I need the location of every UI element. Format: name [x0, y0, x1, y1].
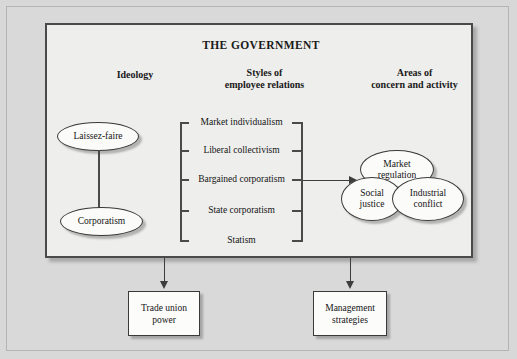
column-header-styles: Styles of employee relations [192, 67, 337, 91]
node-laissez-faire: Laissez-faire [57, 122, 139, 151]
box-management-strategies-line2: strategies [325, 314, 375, 326]
style-item-bargained-corporatism: Bargained corporatism [180, 174, 303, 184]
diagram-root: THE GOVERNMENT Ideology Styles of employ… [0, 0, 517, 359]
arrow-styles-to-areas-line [303, 180, 351, 182]
node-social-justice-line1: Social [360, 188, 385, 199]
column-header-ideology: Ideology [75, 69, 195, 81]
arrow-to-management-head [346, 281, 354, 289]
column-header-areas-line1: Areas of [342, 67, 487, 79]
styles-bracket: Market individualism Liberal collectivis… [180, 122, 303, 242]
page-title: THE GOVERNMENT [47, 39, 475, 51]
column-header-areas: Areas of concern and activity [342, 67, 487, 91]
node-social-justice-line2: justice [360, 199, 385, 210]
node-industrial-conflict-line1: Industrial [410, 188, 446, 199]
node-corporatism: Corporatism [60, 207, 143, 236]
column-header-styles-line2: employee relations [192, 79, 337, 91]
style-item-statism: Statism [180, 235, 303, 245]
style-item-market-individualism: Market individualism [180, 117, 303, 127]
style-item-state-corporatism: State corporatism [180, 205, 303, 215]
box-management-strategies: Management strategies [313, 291, 387, 336]
column-header-styles-line1: Styles of [192, 67, 337, 79]
node-industrial-conflict-line2: conflict [410, 199, 446, 210]
arrow-to-management-line [350, 258, 352, 282]
style-item-liberal-collectivism: Liberal collectivism [180, 145, 303, 155]
government-panel: THE GOVERNMENT Ideology Styles of employ… [45, 23, 473, 258]
ideology-connector-line [98, 150, 100, 208]
column-header-areas-line2: concern and activity [342, 79, 487, 91]
box-trade-union-power-line1: Trade union [141, 302, 187, 314]
box-management-strategies-line1: Management [325, 302, 375, 314]
node-industrial-conflict: Industrial conflict [392, 177, 464, 221]
box-trade-union-power: Trade union power [128, 291, 200, 336]
box-trade-union-power-line2: power [141, 314, 187, 326]
arrow-to-trade-union-line [164, 258, 166, 282]
node-market-regulation-line1: Market [378, 159, 417, 170]
arrow-to-trade-union-head [160, 281, 168, 289]
